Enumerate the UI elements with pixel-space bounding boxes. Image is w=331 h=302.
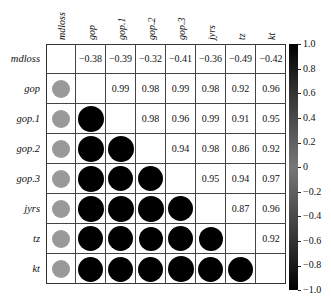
correlation-circle — [46, 254, 76, 284]
correlation-dot — [108, 226, 133, 251]
colorbar-tick-label: 1.0 — [298, 38, 331, 50]
colorbar-tick-label: 0 — [298, 161, 331, 173]
correlation-value: −0.38 — [76, 44, 106, 74]
column-label-text: kt — [266, 33, 277, 40]
correlation-dot — [52, 110, 70, 128]
correlation-circle — [106, 194, 136, 224]
row-label: gop.1 — [0, 104, 40, 134]
colorbar-tick-label: −0.8 — [298, 259, 331, 271]
correlation-dot — [52, 230, 70, 248]
column-label: gop — [76, 0, 106, 42]
colorbar-tick-label: 0.2 — [298, 136, 331, 148]
correlation-value: 0.97 — [256, 164, 286, 194]
correlation-circle — [46, 164, 76, 194]
correlation-dot — [138, 257, 163, 282]
correlation-circle — [136, 194, 166, 224]
correlation-circle — [46, 74, 76, 104]
row-label: gop.3 — [0, 164, 40, 194]
row-label: tz — [0, 224, 40, 254]
column-label-text: jyrs — [206, 25, 217, 40]
correlation-value: 0.99 — [166, 74, 196, 104]
correlation-circle — [46, 224, 76, 254]
correlation-value: 0.87 — [226, 194, 256, 224]
column-label: mdloss — [46, 0, 76, 42]
diagonal-cell — [46, 44, 76, 74]
correlation-value: −0.49 — [226, 44, 256, 74]
correlation-value: −0.42 — [256, 44, 286, 74]
correlation-circle — [106, 224, 136, 254]
column-label-text: mdloss — [56, 12, 67, 40]
correlation-circle — [76, 164, 106, 194]
column-label-text: tz — [236, 33, 247, 40]
correlation-dot — [168, 196, 193, 221]
correlation-dot — [52, 200, 70, 218]
correlation-circle — [136, 224, 166, 254]
column-label: tz — [226, 0, 256, 42]
column-label-text: gop.1 — [116, 18, 127, 41]
correlation-circle — [166, 224, 196, 254]
correlation-value: 0.94 — [226, 164, 256, 194]
correlation-value: 0.92 — [226, 74, 256, 104]
correlation-value: −0.41 — [166, 44, 196, 74]
row-label: kt — [0, 254, 40, 284]
correlation-circle — [136, 164, 166, 194]
correlation-value: 0.92 — [256, 224, 286, 254]
row-label: mdloss — [0, 44, 40, 74]
correlation-value: 0.99 — [196, 104, 226, 134]
correlation-dot — [198, 257, 223, 282]
correlation-value: 0.98 — [196, 134, 226, 164]
correlation-dot — [78, 196, 104, 222]
correlation-value: 0.96 — [166, 104, 196, 134]
correlation-value: 0.95 — [256, 104, 286, 134]
correlation-value: 0.94 — [166, 134, 196, 164]
correlation-circle — [196, 224, 226, 254]
correlation-value: −0.36 — [196, 44, 226, 74]
correlation-circle — [76, 224, 106, 254]
correlation-dot — [228, 257, 253, 282]
correlation-dot — [138, 196, 164, 222]
correlation-circle — [46, 104, 76, 134]
colorbar-tick-label: 0.4 — [298, 112, 331, 124]
correlation-circle — [76, 134, 106, 164]
correlation-dot — [78, 226, 103, 251]
correlation-circle — [46, 194, 76, 224]
colorbar-tick-label: 0.8 — [298, 63, 331, 75]
column-label: gop.3 — [166, 0, 196, 42]
correlation-dot — [199, 227, 223, 251]
correlation-circle — [166, 194, 196, 224]
column-label-text: gop.2 — [146, 18, 157, 41]
correlation-dot — [52, 260, 70, 278]
correlation-dot — [168, 226, 193, 251]
correlation-value: 0.99 — [106, 74, 136, 104]
correlation-circle — [196, 254, 226, 284]
column-label: gop.1 — [106, 0, 136, 42]
correlation-value: 0.92 — [256, 134, 286, 164]
correlation-value: 0.91 — [226, 104, 256, 134]
correlation-circle — [136, 254, 166, 284]
row-label: jyrs — [0, 194, 40, 224]
correlation-value: 0.96 — [256, 194, 286, 224]
correlation-circle — [166, 254, 196, 284]
correlation-circle — [76, 104, 106, 134]
correlation-circle — [226, 254, 256, 284]
correlation-dot — [52, 170, 70, 188]
correlation-dot — [108, 166, 133, 191]
correlation-value: 0.98 — [136, 104, 166, 134]
correlation-value: 0.98 — [136, 74, 166, 104]
correlation-dot — [78, 136, 104, 162]
correlation-value: 0.98 — [196, 74, 226, 104]
diagonal-cell — [196, 194, 226, 224]
correlation-circle — [106, 164, 136, 194]
correlation-dot — [78, 106, 104, 132]
correlation-circle — [106, 134, 136, 164]
diagonal-cell — [106, 104, 136, 134]
correlation-value: −0.32 — [136, 44, 166, 74]
correlation-dot — [52, 140, 70, 158]
correlation-dot — [168, 256, 194, 282]
diagonal-cell — [136, 134, 166, 164]
diagonal-cell — [76, 74, 106, 104]
colorbar-tick-label: −0.2 — [298, 186, 331, 198]
diagonal-cell — [226, 224, 256, 254]
correlation-grid: −0.38−0.39−0.32−0.41−0.36−0.49−0.420.990… — [46, 44, 286, 284]
correlation-value: −0.39 — [106, 44, 136, 74]
